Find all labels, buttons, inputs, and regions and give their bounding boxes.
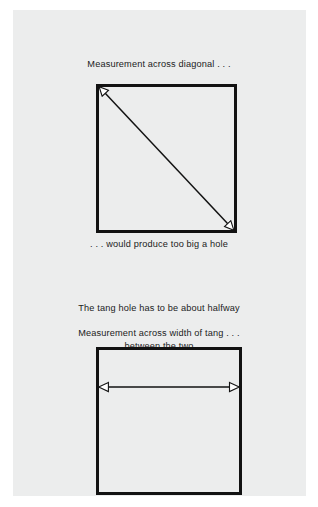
- caption-tang-hole-halfway-line1: The tang hole has to be about halfway: [0, 302, 318, 315]
- caption-measurement-across-width-of-tang: Measurement across width of tang . . .: [0, 327, 318, 340]
- caption-measurement-across-diagonal: Measurement across diagonal . . .: [0, 58, 318, 71]
- diagonal-double-arrow-icon: [96, 84, 237, 233]
- caption-would-produce-too-big-a-hole: . . . would produce too big a hole: [0, 238, 318, 251]
- figure-page: Measurement across diagonal . . . . . . …: [0, 0, 318, 507]
- horizontal-double-arrow-icon: [96, 347, 242, 495]
